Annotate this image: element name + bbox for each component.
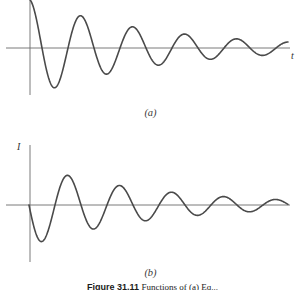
panel-sublabel-a: (a)	[0, 108, 303, 119]
figure-caption-number: Figure 31.11	[87, 283, 139, 290]
x-axis-label-a: t	[291, 51, 294, 61]
figure-container: t (a) t I (b) Figure 31.11 Functions of …	[0, 0, 305, 290]
chart-svg-b	[0, 140, 305, 265]
damped-oscillation-curve-a	[29, 0, 288, 88]
figure-caption-text: Functions of (a) Eq...	[142, 283, 219, 290]
chart-svg-a	[0, 0, 305, 100]
damped-oscillation-curve-b	[29, 175, 288, 241]
panel-sublabel-b: (b)	[0, 268, 303, 279]
chart-panel-b: t	[0, 140, 305, 265]
figure-caption: Figure 31.11 Functions of (a) Eq...	[0, 283, 305, 290]
y-axis-label-b: I	[17, 142, 20, 152]
chart-panel-a: t	[0, 0, 305, 100]
